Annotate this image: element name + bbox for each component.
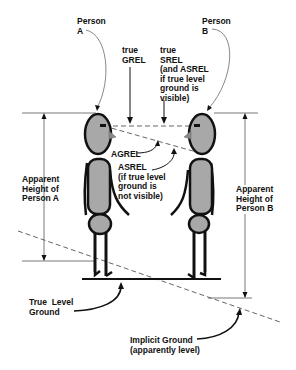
person-a-label: Person A — [77, 17, 106, 36]
asrel-label: ASREL (if true level ground is not visib… — [118, 163, 166, 201]
grel-arrow-head — [127, 117, 133, 124]
implicit-ground-pointer-head — [236, 308, 242, 315]
implicit-ground-label: Implicit Ground (apparently level) — [130, 336, 200, 355]
person-b-label: Person B — [202, 17, 231, 36]
height-a-arrow-top — [42, 113, 47, 119]
height-b-arrow-top — [243, 113, 248, 119]
apparent-height-a-label: Apparent Height of Person A — [22, 175, 59, 204]
person-b-figure — [171, 114, 215, 278]
agrel-label: AGREL — [111, 150, 141, 160]
true-ground-pointer — [74, 286, 121, 311]
true-ground-pointer-head — [118, 282, 124, 289]
person-a-pointer — [86, 30, 106, 108]
height-b-arrow-bottom — [243, 292, 248, 298]
apparent-height-b-label: Apparent Height of Person B — [236, 185, 273, 214]
person-a-pointer-head — [95, 105, 100, 111]
agrel-pointer-head — [155, 140, 160, 146]
asrel-pointer-head — [171, 148, 177, 154]
person-b-pointer — [209, 29, 230, 108]
true-srel-label: true SREL (and ASREL if true level groun… — [160, 46, 209, 103]
true-level-ground-label: True Level Ground — [29, 298, 73, 317]
height-a-arrow-bottom — [42, 255, 47, 261]
implicit-ground-pointer — [197, 312, 239, 339]
true-grel-label: true GREL — [122, 46, 146, 65]
srel-arrow-head — [161, 117, 167, 124]
